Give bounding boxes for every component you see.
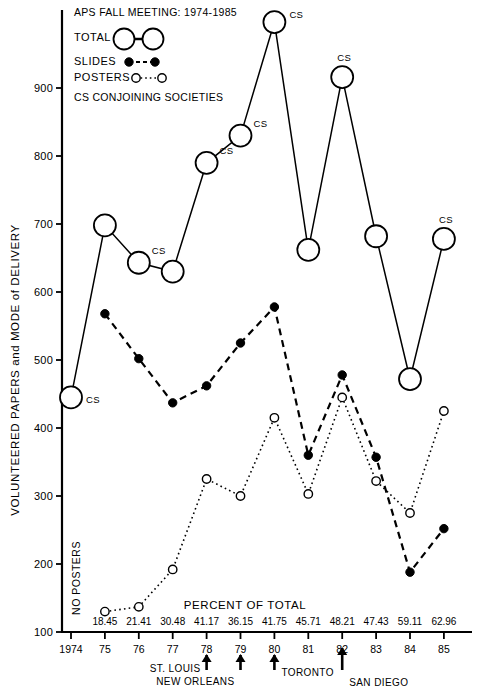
city-arrow-head [202, 654, 212, 662]
y-axis-title: VOLUNTEERED PAPERS and MODE of DELIVERY [9, 224, 21, 515]
x-axis-tick-label: 79 [235, 643, 247, 655]
percent-of-total-value: 21.41 [126, 616, 151, 627]
cs-conjoining-label: CS [152, 245, 166, 256]
cs-conjoining-label: CS [254, 118, 268, 129]
legend-total-label: TOTAL [74, 31, 111, 43]
slides-data-point [101, 310, 109, 318]
city-annotation-label: NEW ORLEANS [156, 676, 234, 687]
posters-data-point [304, 490, 312, 498]
posters-data-point [338, 393, 346, 401]
posters-data-point [406, 509, 414, 517]
legend-posters-marker-left [132, 74, 140, 82]
x-axis-tick-label: 81 [302, 643, 314, 655]
y-axis-tick-label: 300 [34, 490, 53, 502]
total-data-point [399, 368, 421, 390]
cs-conjoining-societies-note: CS CONJOINING SOCIETIES [74, 91, 223, 103]
posters-series-line [105, 397, 444, 611]
chart-labels: 18.4521.4130.4841.1736.1541.7545.7148.21… [9, 9, 457, 688]
y-axis-tick-label: 400 [34, 422, 53, 434]
cs-conjoining-label: CS [439, 214, 453, 225]
percent-of-total-value: 41.17 [194, 616, 219, 627]
total-data-point [128, 252, 150, 274]
y-axis-tick-label: 200 [34, 558, 53, 570]
percent-of-total-value: 30.48 [160, 616, 185, 627]
x-axis-tick-label: 84 [404, 643, 416, 655]
slides-data-point [270, 303, 278, 311]
percent-of-total-value: 45.71 [296, 616, 321, 627]
posters-data-point [270, 414, 278, 422]
posters-data-point [135, 603, 143, 611]
y-axis-tick-label: 700 [34, 218, 53, 230]
slides-data-point [202, 382, 210, 390]
slides-data-point [236, 339, 244, 347]
legend-total-marker-right [143, 29, 164, 50]
chart-svg: 1002003004005006007008009001974757677787… [0, 0, 488, 692]
slides-data-point [135, 354, 143, 362]
chart-legend: APS FALL MEETING: 1974-1985TOTALSLIDESPO… [74, 6, 237, 103]
percent-of-total-value: 59.11 [398, 616, 423, 627]
percent-of-total-value: 47.43 [364, 616, 389, 627]
slides-data-point [406, 568, 414, 576]
y-axis-tick-label: 100 [34, 626, 53, 638]
cs-conjoining-label: CS [289, 9, 303, 20]
x-axis-tick-label: 75 [99, 643, 111, 655]
percent-of-total-value: 18.45 [92, 616, 117, 627]
legend-slides-marker-left [125, 58, 133, 66]
city-annotation-label: SAN DIEGO [349, 677, 408, 688]
total-data-point [297, 239, 319, 261]
city-annotation-label: TORONTO [281, 667, 333, 678]
posters-data-point [440, 407, 448, 415]
slides-data-point [440, 524, 448, 532]
legend-total-marker-left [114, 29, 135, 50]
x-axis-tick-label: 83 [370, 643, 382, 655]
total-data-point [94, 214, 116, 236]
total-data-point [60, 386, 82, 408]
x-axis-tick-label: 77 [167, 643, 179, 655]
chart-figure: 1002003004005006007008009001974757677787… [0, 0, 488, 692]
y-axis-tick-label: 800 [34, 150, 53, 162]
total-data-point [263, 11, 285, 33]
posters-data-point [202, 475, 210, 483]
legend-posters-label: POSTERS [74, 71, 130, 83]
city-arrow-head [269, 654, 279, 662]
percent-of-total-value: 36.15 [228, 616, 253, 627]
percent-of-total-value: 48.21 [330, 616, 355, 627]
city-arrow-head [236, 654, 246, 662]
x-axis-title: PERCENT OF TOTAL [184, 599, 307, 611]
x-axis-tick-label: 85 [438, 643, 450, 655]
total-data-point [230, 125, 252, 147]
posters-data-point [101, 607, 109, 615]
x-axis-tick-label: 78 [201, 643, 213, 655]
legend-slides-label: SLIDES [74, 55, 116, 67]
total-data-point [162, 261, 184, 283]
slides-data-point [372, 453, 380, 461]
cs-conjoining-label: CS [220, 145, 234, 156]
x-axis-tick-label: 76 [133, 643, 145, 655]
city-annotation-label: ST. LOUIS [150, 663, 201, 674]
y-axis-tick-label: 500 [34, 354, 53, 366]
x-axis-tick-label: 1974 [59, 643, 83, 655]
legend-slides-marker-right [151, 58, 159, 66]
total-data-point [331, 66, 353, 88]
y-axis-tick-label: 600 [34, 286, 53, 298]
slides-data-point [304, 451, 312, 459]
percent-of-total-value: 41.75 [262, 616, 287, 627]
chart-header-title: APS FALL MEETING: 1974-1985 [74, 6, 237, 18]
y-axis-tick-label: 900 [34, 82, 53, 94]
total-data-point [433, 228, 455, 250]
posters-data-point [236, 492, 244, 500]
slides-data-point [169, 399, 177, 407]
total-data-point [196, 152, 218, 174]
x-axis-tick-label: 80 [269, 643, 281, 655]
cs-conjoining-label: CS [337, 52, 351, 63]
axis-frame [62, 10, 472, 632]
percent-of-total-value: 62.96 [431, 616, 456, 627]
cs-conjoining-label: CS [86, 394, 100, 405]
legend-posters-marker-right [158, 74, 166, 82]
posters-data-point [169, 565, 177, 573]
posters-data-point [372, 477, 380, 485]
no-posters-annotation: NO POSTERS [70, 541, 82, 615]
total-data-point [365, 225, 387, 247]
slides-series-line [105, 307, 444, 572]
slides-data-point [338, 371, 346, 379]
